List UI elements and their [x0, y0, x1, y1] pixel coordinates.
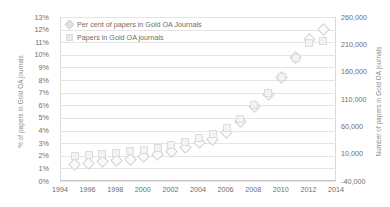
chart-container: % of papers in Gold OA journals Number o… — [0, 0, 390, 207]
data-point-square — [305, 39, 313, 47]
data-point-square — [126, 147, 134, 155]
data-point-square — [250, 101, 258, 109]
legend-item-percent: Per cent of papers in Gold OA Journals — [66, 19, 202, 30]
grid-line — [60, 131, 336, 132]
y-axis-right-tick-label: 110,000 — [341, 95, 366, 104]
grid-line — [60, 168, 336, 169]
x-axis-tick-label: 2000 — [128, 185, 158, 194]
grid-line — [60, 93, 336, 94]
data-point-square — [236, 115, 244, 123]
data-point-square — [292, 54, 300, 62]
y-axis-right-tick-label: 10,000 — [341, 149, 363, 158]
x-axis-tick-label: 2002 — [155, 185, 185, 194]
data-point-square — [98, 150, 106, 158]
data-point-square — [278, 73, 286, 81]
data-point-square — [154, 144, 162, 152]
x-axis-tick-label: 2014 — [321, 185, 351, 194]
data-point-square — [85, 151, 93, 159]
x-axis-tick-label: 1994 — [45, 185, 75, 194]
chart-legend: Per cent of papers in Gold OA Journals P… — [66, 19, 202, 45]
x-axis-tick-label: 1998 — [100, 185, 130, 194]
diamond-marker-icon — [65, 20, 75, 30]
x-axis-tick-label: 2004 — [183, 185, 213, 194]
data-point-square — [209, 130, 217, 138]
y-axis-right-tick-label: 160,000 — [341, 67, 367, 76]
grid-line — [60, 17, 336, 18]
data-point-square — [71, 152, 79, 160]
legend-label-percent: Per cent of papers in Gold OA Journals — [77, 20, 202, 29]
x-axis-tick-label: 2006 — [211, 185, 241, 194]
grid-line — [60, 105, 336, 106]
grid-line — [60, 67, 336, 68]
data-point-square — [181, 138, 189, 146]
y-axis-right-tick-label: 260,000 — [341, 13, 367, 22]
data-point-square — [167, 141, 175, 149]
x-axis-ticks: 1994199619982000200220042006200820102012… — [60, 185, 336, 197]
data-point-square — [140, 146, 148, 154]
square-marker-icon — [66, 34, 73, 41]
y-axis-right-tick-label: 60,000 — [341, 122, 363, 131]
grid-line — [60, 181, 336, 182]
legend-item-papers: Papers in Gold OA journals — [66, 32, 202, 43]
x-axis-tick-label: 2010 — [266, 185, 296, 194]
x-axis-tick-label: 2012 — [293, 185, 323, 194]
x-axis-tick-label: 1996 — [73, 185, 103, 194]
data-point-square — [195, 134, 203, 142]
data-point-square — [319, 37, 327, 45]
legend-label-papers: Papers in Gold OA journals — [77, 33, 164, 42]
y-axis-right-tick-label: 210,000 — [341, 40, 367, 49]
data-point-diamond — [317, 23, 330, 36]
x-axis-tick-label: 2008 — [238, 185, 268, 194]
grid-line — [60, 118, 336, 119]
grid-line — [60, 80, 336, 81]
data-point-square — [223, 124, 231, 132]
data-point-square — [112, 149, 120, 157]
data-point-square — [264, 89, 272, 97]
